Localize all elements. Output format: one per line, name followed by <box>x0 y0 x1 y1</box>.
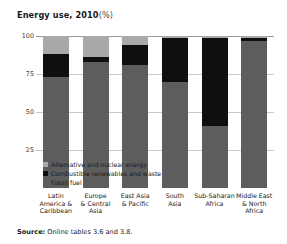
chart-title-main: Energy use, 2010 <box>17 10 99 20</box>
legend-swatch-icon <box>43 171 48 176</box>
bar-segment-alternative[interactable] <box>202 36 228 38</box>
bar-segment-combustible[interactable] <box>83 57 109 62</box>
x-axis-category-label: South Asia <box>154 192 196 207</box>
bar-segment-combustible[interactable] <box>202 38 228 126</box>
bar-segment-fossil[interactable] <box>202 126 228 188</box>
bar-segment-combustible[interactable] <box>43 54 69 77</box>
chart-title-unit: (%) <box>99 10 113 20</box>
bar-group[interactable] <box>162 36 188 188</box>
legend-swatch-icon <box>43 180 48 185</box>
energy-use-chart-figure: Energy use, 2010(%) 100755025 Alternativ… <box>0 0 287 244</box>
bar-segment-alternative[interactable] <box>241 36 267 38</box>
legend-label: Fossil fuel <box>51 179 82 186</box>
legend-label: Alternative and nuclear energy <box>51 161 147 168</box>
gridline-100 <box>36 36 274 37</box>
legend-item[interactable]: Fossil fuel <box>43 178 155 187</box>
gridline-25 <box>36 150 274 151</box>
y-axis: 100755025 <box>13 36 34 188</box>
x-axis-category-label: Latin America & Caribbean <box>35 192 77 215</box>
legend-swatch-icon <box>43 162 48 167</box>
x-axis-category-label: Middle East & North Africa <box>233 192 275 215</box>
y-tick-label-25: 25 <box>16 147 34 154</box>
bar-segment-alternative[interactable] <box>83 36 109 57</box>
bar-segment-fossil[interactable] <box>241 41 267 188</box>
x-axis-category-label: Europe & Central Asia <box>75 192 117 215</box>
chart-title: Energy use, 2010(%) <box>17 10 113 20</box>
gridline-50 <box>36 112 274 113</box>
bar-segment-combustible[interactable] <box>122 45 148 65</box>
bar-segment-combustible[interactable] <box>241 38 267 41</box>
legend-item[interactable]: Combustible renewables and waste <box>43 169 155 178</box>
gridline-75 <box>36 74 274 75</box>
bar-segment-alternative[interactable] <box>122 36 148 45</box>
source-label: Source: <box>17 228 45 236</box>
bar-segment-alternative[interactable] <box>43 36 69 54</box>
bar-group[interactable] <box>202 36 228 188</box>
legend-label: Combustible renewables and waste <box>51 170 161 177</box>
source-note: Source: Online tables 3.6 and 3.8. <box>17 228 133 236</box>
source-value: Online tables 3.6 and 3.8. <box>47 228 132 236</box>
x-axis-category-label: Sub-Saharan Africa <box>194 192 236 207</box>
bar-segment-combustible[interactable] <box>162 38 188 82</box>
y-tick-label-75: 75 <box>16 71 34 78</box>
y-tick-label-50: 50 <box>16 109 34 116</box>
bar-group[interactable] <box>241 36 267 188</box>
bar-segment-alternative[interactable] <box>162 36 188 38</box>
legend-item[interactable]: Alternative and nuclear energy <box>43 160 155 169</box>
x-axis-labels: Latin America & CaribbeanEurope & Centra… <box>36 192 274 228</box>
x-axis-category-label: East Asia & Pacific <box>114 192 156 207</box>
y-tick-label-100: 100 <box>16 33 34 40</box>
chart-legend: Alternative and nuclear energyCombustibl… <box>43 160 155 187</box>
bar-segment-fossil[interactable] <box>162 82 188 188</box>
